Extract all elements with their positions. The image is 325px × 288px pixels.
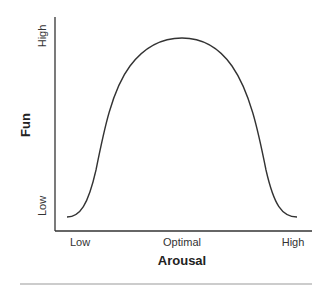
y-axis-title: Fun <box>18 113 33 137</box>
y-tick-low: Low <box>36 196 48 216</box>
x-axis-title: Arousal <box>158 253 206 268</box>
inverted-u-chart: High Low Fun Low Optimal High Arousal <box>0 0 325 288</box>
x-tick-low: Low <box>70 236 90 248</box>
fun-arousal-curve <box>67 38 297 217</box>
y-tick-high: High <box>36 25 48 48</box>
x-tick-optimal: Optimal <box>163 236 201 248</box>
x-tick-high: High <box>282 236 305 248</box>
